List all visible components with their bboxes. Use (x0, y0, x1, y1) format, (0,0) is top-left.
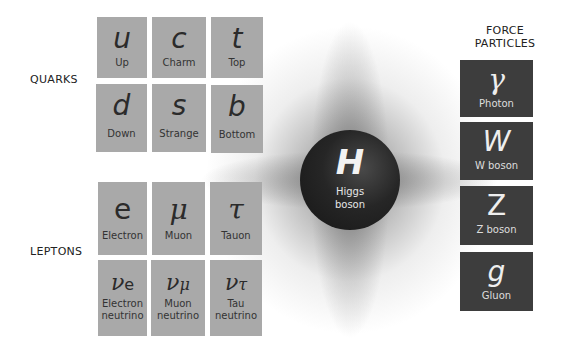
particle-name: Bottom (211, 129, 263, 141)
particle-name: Top (211, 57, 263, 69)
particle-symbol: g (460, 258, 533, 286)
particle-symbol: s (152, 92, 206, 120)
particle-name: Down (96, 128, 147, 140)
particle-name: Gluon (460, 290, 533, 302)
particle-name: Tau neutrino (210, 298, 262, 322)
subscript: e (124, 275, 134, 294)
force-particles-label: FORCE PARTICLES (470, 24, 540, 50)
particle-symbol: W (460, 128, 533, 156)
particle-gluon: g Gluon (460, 252, 533, 311)
particle-tau-neutrino: ντ Tau neutrino (210, 260, 262, 336)
particle-symbol: d (96, 92, 147, 120)
particle-symbol: c (152, 25, 206, 53)
particle-down-quark: d Down (96, 84, 147, 152)
subscript: μ (179, 275, 189, 294)
name-line2: neutrino (98, 310, 147, 322)
name-line1: Higgs (300, 185, 400, 198)
particle-name: Z boson (460, 224, 533, 236)
particle-symbol: νe (98, 272, 147, 294)
particle-name: Tauon (210, 230, 262, 242)
particle-symbol: ντ (210, 272, 262, 294)
subscript: τ (238, 275, 247, 294)
force-label-line1: FORCE (470, 24, 540, 37)
particle-name: Strange (152, 128, 206, 140)
nu-symbol: ν (111, 270, 124, 295)
name-line2: neutrino (151, 310, 205, 322)
particle-electron: e Electron (98, 182, 147, 255)
particle-symbol: b (211, 93, 263, 121)
quarks-label: QUARKS (30, 73, 78, 86)
particle-top-quark: t Top (211, 17, 263, 78)
particle-muon-neutrino: νμ Muon neutrino (151, 260, 205, 336)
particle-charm-quark: c Charm (152, 17, 206, 78)
particle-name: Muon neutrino (151, 298, 205, 322)
force-label-line2: PARTICLES (470, 37, 540, 50)
particle-photon: γ Photon (460, 60, 533, 117)
particle-name: Up (97, 57, 147, 69)
particle-bottom-quark: b Bottom (211, 85, 263, 153)
particle-symbol: τ (210, 196, 262, 224)
particle-symbol: u (97, 25, 147, 53)
particle-name: Electron neutrino (98, 298, 147, 322)
particle-name: Photon (460, 98, 533, 110)
particle-symbol: μ (152, 196, 205, 224)
particle-name: Muon (152, 230, 205, 242)
particle-muon: μ Muon (152, 182, 205, 255)
particle-w-boson: W W boson (460, 122, 533, 180)
higgs-name: Higgs boson (300, 185, 400, 211)
particle-symbol: γ (460, 66, 533, 94)
name-line1: Muon (151, 298, 205, 310)
particle-symbol: νμ (151, 272, 205, 294)
name-line2: boson (300, 198, 400, 211)
particle-symbol: Z (460, 192, 533, 220)
particle-tauon: τ Tauon (210, 182, 262, 255)
nu-symbol: ν (166, 270, 179, 295)
particle-name: Charm (152, 57, 206, 69)
particle-electron-neutrino: νe Electron neutrino (98, 260, 147, 336)
name-line2: neutrino (210, 310, 262, 322)
particle-z-boson: Z Z boson (460, 186, 533, 245)
name-line1: Electron (98, 298, 147, 310)
particle-symbol: e (98, 196, 147, 224)
particle-name: W boson (460, 160, 533, 172)
particle-up-quark: u Up (97, 17, 147, 78)
nu-symbol: ν (225, 270, 238, 295)
leptons-label: LEPTONS (30, 245, 82, 258)
higgs-symbol: H (300, 142, 400, 182)
name-line1: Tau (210, 298, 262, 310)
particle-symbol: t (211, 25, 263, 53)
particle-name: Electron (98, 230, 147, 242)
higgs-boson: H Higgs boson (300, 130, 400, 230)
particle-strange-quark: s Strange (152, 84, 206, 152)
